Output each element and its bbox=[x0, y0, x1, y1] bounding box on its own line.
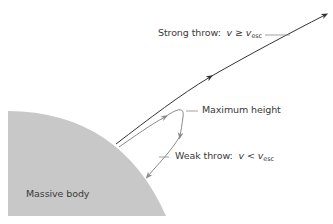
weak-throw-ascent bbox=[119, 117, 165, 147]
max-height-label: Maximum height bbox=[202, 104, 281, 115]
weak-throw-label: Weak throw: v < vesc bbox=[175, 150, 274, 163]
weak-throw-apex bbox=[165, 110, 183, 136]
massive-body-label: Massive body bbox=[26, 188, 89, 199]
massive-body-shape bbox=[8, 111, 166, 216]
strong-throw-label: Strong throw: v ≥ vesc bbox=[158, 27, 262, 40]
strong-throw-trajectory-outer bbox=[210, 15, 325, 77]
escape-velocity-diagram: Strong throw: v ≥ vesc Maximum height We… bbox=[0, 0, 333, 224]
strong-throw-trajectory bbox=[116, 77, 210, 144]
